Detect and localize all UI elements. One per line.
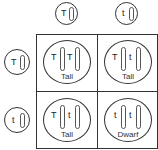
chromosome-icon xyxy=(60,105,65,129)
chromosome-icon xyxy=(121,47,126,71)
allele-label: T xyxy=(51,53,57,62)
allele-label: t xyxy=(129,53,132,62)
allele-label: T xyxy=(67,53,73,62)
chromosome-icon xyxy=(75,105,80,129)
offspring-cell-3: T t Tall xyxy=(43,98,91,142)
chromosome-icon xyxy=(60,47,65,71)
gamete-row-2: t xyxy=(4,107,30,133)
chromosome-icon xyxy=(20,113,25,128)
allele-label: t xyxy=(68,111,71,120)
chromosome-icon xyxy=(121,105,126,129)
gamete-row-1: T xyxy=(4,49,30,75)
phenotype-label: Tall xyxy=(44,131,90,139)
grid-divider-horizontal xyxy=(37,91,157,92)
allele-label: T xyxy=(61,9,67,18)
allele-label: t xyxy=(12,116,15,125)
offspring-cell-2: T t Tall xyxy=(104,40,152,84)
chromosome-icon xyxy=(129,7,134,21)
offspring-cell-4: t t Dwarf xyxy=(104,98,152,142)
phenotype-label: Tall xyxy=(105,73,151,81)
chromosome-icon xyxy=(69,7,74,21)
chromosome-icon xyxy=(75,47,80,71)
punnett-grid: T T Tall T t Tall T t Tall t t Dwarf xyxy=(36,34,158,149)
chromosome-icon xyxy=(20,55,25,70)
phenotype-label: Dwarf xyxy=(105,131,151,139)
allele-label: t xyxy=(129,111,132,120)
allele-label: T xyxy=(11,58,17,67)
allele-label: t xyxy=(114,111,117,120)
allele-label: t xyxy=(122,9,125,18)
allele-label: T xyxy=(51,111,57,120)
chromosome-icon xyxy=(136,105,141,129)
allele-label: T xyxy=(112,53,118,62)
offspring-cell-1: T T Tall xyxy=(43,40,91,84)
gamete-col-1: T xyxy=(55,2,78,25)
phenotype-label: Tall xyxy=(44,73,90,81)
chromosome-icon xyxy=(136,47,141,71)
gamete-col-2: t xyxy=(115,2,138,25)
